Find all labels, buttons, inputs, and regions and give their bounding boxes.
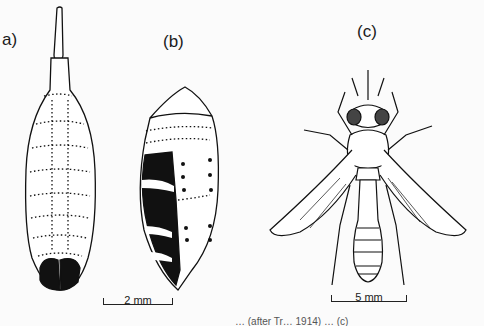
fly-illustration <box>270 70 466 285</box>
illustrations <box>0 0 484 326</box>
puparium-illustration <box>140 87 218 290</box>
scale-bar-2mm: 2 mm <box>103 300 173 319</box>
figure-caption-clipped: … (after Tr… 1914) … (c) <box>235 316 348 326</box>
larva-illustration <box>26 7 96 290</box>
scale-bar-5mm: 5 mm <box>331 297 407 316</box>
figure: a) (b) (c) <box>0 0 484 326</box>
